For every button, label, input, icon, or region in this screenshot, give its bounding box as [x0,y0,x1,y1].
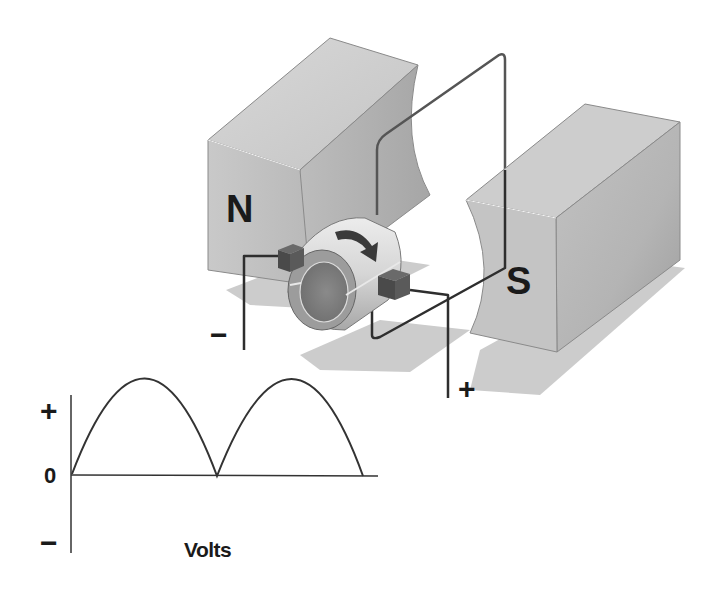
output-waveform [72,378,363,476]
north-pole-label: N [226,190,253,228]
negative-terminal-label: − [210,320,228,350]
south-pole-label: S [506,262,531,300]
graph-positive-label: + [40,396,58,426]
south-magnet [466,104,680,352]
zero-axis [71,475,378,476]
dc-generator-diagram [0,0,725,589]
graph-x-axis-label: Volts [184,539,231,560]
voltage-graph [71,378,378,553]
graph-negative-label: − [40,528,58,558]
positive-terminal-label: + [458,374,476,404]
graph-zero-label: 0 [44,465,56,487]
